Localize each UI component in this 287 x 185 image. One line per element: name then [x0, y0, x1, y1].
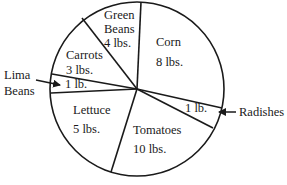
callout-label-line-2: Beans [4, 84, 35, 98]
callout-label: Radishes [239, 105, 284, 119]
slice-label-value: 3 lbs. [66, 63, 93, 77]
slice-label-name-line-2: Beans [104, 22, 135, 36]
slice-label-value: 5 lbs. [73, 122, 100, 136]
slice-label-name: Corn [156, 35, 182, 49]
lima-beans-arrow-icon [36, 80, 60, 85]
slice-label-value: 10 lbs. [133, 142, 166, 156]
slice-label-value: 4 lbs. [104, 36, 131, 50]
slice-label-name: Tomatoes [133, 123, 182, 137]
slice-lettuce: Lettuce 5 lbs. [73, 103, 111, 136]
slice-carrots: Carrots 3 lbs. [66, 48, 103, 77]
callout-label-line-1: Lima [4, 68, 31, 82]
divider-limabeans-lettuce [51, 89, 137, 93]
slice-label-name: Lettuce [73, 103, 111, 117]
slice-green-beans: Green Beans 4 lbs. [104, 8, 135, 50]
slice-label-value: 1 lb. [65, 77, 87, 91]
slice-radishes: 1 lb. Radishes [185, 101, 284, 119]
divider-radishes-corn [137, 89, 222, 108]
slice-label-name-line-1: Green [104, 8, 135, 22]
slice-corn: Corn 8 lbs. [156, 35, 183, 69]
slice-tomatoes: Tomatoes 10 lbs. [133, 123, 182, 156]
slice-label-value: 8 lbs. [156, 55, 183, 69]
slice-label-value: 1 lb. [185, 101, 207, 115]
divider-corn-greenbeans [137, 2, 141, 89]
pie-chart: Corn 8 lbs. 1 lb. Radishes Tomatoes 10 l… [0, 0, 287, 185]
slice-label-name: Carrots [66, 48, 103, 62]
